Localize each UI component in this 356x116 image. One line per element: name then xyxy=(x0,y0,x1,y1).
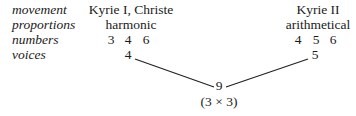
connector-lines xyxy=(0,0,356,116)
left-connector-line xyxy=(135,59,214,87)
right-connector-line xyxy=(226,59,308,87)
